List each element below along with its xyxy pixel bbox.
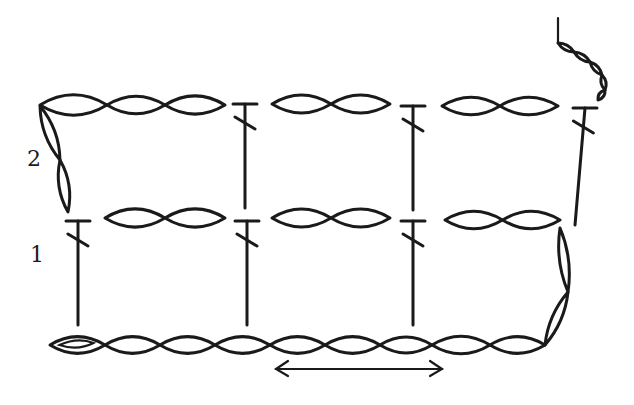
yarn-tail-chain-stitch (574, 52, 590, 62)
row1-turning-chain-stitch (559, 228, 570, 292)
row2-chain-stitch (40, 95, 107, 115)
row2-chain-stitch (272, 95, 331, 113)
foundation-chain-stitch (105, 337, 160, 354)
foundation-chain-stitch (270, 337, 325, 354)
row-label-2: 2 (27, 146, 41, 171)
row1-chain-stitch (272, 209, 331, 227)
slip-knot-inner-loop (60, 340, 94, 347)
row1-chain-stitch (503, 211, 561, 228)
row2-chain-stitch (442, 97, 500, 115)
row1-chain-stitch (105, 209, 165, 227)
row2-chain-stitch (107, 96, 165, 114)
crochet-chart-canvas: 21 (0, 0, 634, 405)
row1-turning-chain-stitch (545, 292, 568, 345)
row1-chain-stitch (165, 209, 225, 227)
yarn-tail-chain-stitch (598, 90, 605, 100)
row1-chain-stitch (445, 211, 503, 228)
foundation-chain-stitch (160, 337, 215, 354)
yarn-tail-chain-stitch (601, 75, 606, 90)
yarn-tail-chain-stitch (558, 43, 574, 52)
row2-chain-stitch (500, 97, 558, 115)
crochet-diagram: 21 (0, 0, 634, 405)
row2-chain-stitch (165, 96, 225, 114)
row2-chain-stitch (331, 95, 390, 113)
row-label-1: 1 (30, 242, 44, 267)
row1-chain-stitch (331, 209, 390, 227)
foundation-chain-stitch (490, 337, 545, 354)
foundation-chain-stitch (432, 336, 490, 354)
foundation-chain-stitch (325, 337, 380, 354)
foundation-chain-stitch (215, 337, 270, 354)
foundation-chain-stitch (380, 337, 432, 353)
yarn-tail-chain-stitch (590, 62, 602, 75)
row2-turning-chain-stitch (58, 160, 70, 212)
